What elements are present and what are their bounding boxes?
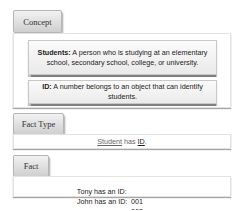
definition-term: ID: [42,82,52,91]
definition-body: A number belongs to an object that can i… [52,82,203,101]
definition-body: A person who is studying at an elementar… [47,48,208,67]
fact-line-value: 001 [131,197,143,207]
fact-type-subject: Student [97,137,122,146]
fact-panel: Tony has an ID: 001 John has an ID: 002 [13,176,231,197]
definition-students: Students: A person who is studying at an… [28,40,217,75]
definition-id: ID: A number belongs to an object that c… [28,80,217,104]
definition-id-text: ID: A number belongs to an object that c… [35,82,210,102]
concept-tab-label: Concept [23,17,51,27]
fact-type-panel: Student has ID. [13,134,231,149]
fact-line-value: 002 [131,207,143,211]
fact-tab-label: Fact [24,161,39,171]
fact-type-tab-label: Fact Type [22,119,55,129]
fact-type-verb: has [122,137,138,146]
definition-term: Students: [38,48,71,57]
fact-type-terminator: . [145,137,147,146]
concept-tab-button[interactable]: Concept [13,10,62,33]
fact-type-sentence: Student has ID. [14,137,230,147]
definition-students-text: Students: A person who is studying at an… [35,48,210,68]
fact-type-object: ID [138,137,145,146]
fact-type-tab-button[interactable]: Fact Type [13,113,64,135]
fact-line: John has an ID: 002 [69,187,127,211]
fact-line-text: John has an ID: [77,197,127,206]
fact-tab-button[interactable]: Fact [13,155,49,177]
